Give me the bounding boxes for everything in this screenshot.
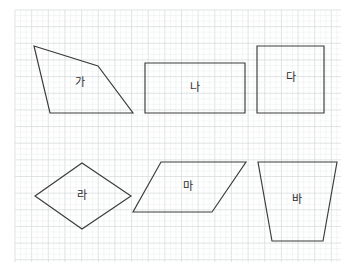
shape-ma-label: 마 — [183, 180, 193, 193]
worksheet-page: 가나다라마바 — [0, 0, 354, 271]
shape-ba-label: 바 — [292, 193, 302, 206]
shape-ra-label: 라 — [77, 189, 87, 202]
shape-da-label: 다 — [286, 71, 296, 84]
shape-ga-label: 가 — [75, 76, 85, 89]
worksheet-canvas: 가나다라마바 — [0, 0, 354, 271]
page-background — [0, 0, 354, 271]
shape-na-label: 나 — [190, 81, 200, 94]
